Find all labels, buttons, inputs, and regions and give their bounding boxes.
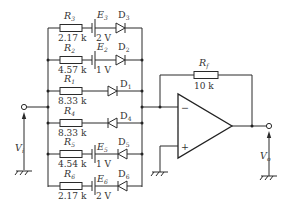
opamp-inverting-sign: − bbox=[181, 102, 189, 113]
resistor-r1 bbox=[60, 88, 82, 95]
svg-text:8.33 k: 8.33 k bbox=[58, 128, 87, 138]
svg-text:R3: R3 bbox=[63, 10, 75, 22]
diode-d3-icon bbox=[116, 23, 125, 33]
svg-text:D1: D1 bbox=[120, 78, 131, 90]
svg-text:8.33 k: 8.33 k bbox=[58, 96, 87, 106]
branch-r4-d4: R4 8.33 k D4 bbox=[47, 105, 144, 138]
rf-value: 10 k bbox=[194, 81, 214, 91]
ground-icon bbox=[151, 172, 168, 176]
svg-text:E6: E6 bbox=[96, 173, 108, 185]
input-terminal bbox=[21, 104, 26, 109]
svg-text:1 V: 1 V bbox=[96, 65, 112, 75]
ground-icon bbox=[260, 176, 277, 180]
resistor-r2 bbox=[60, 57, 82, 64]
svg-text:R6: R6 bbox=[63, 168, 75, 180]
branch-r3-e3-d3: R3 2.17 k E3 2 V D3 bbox=[48, 9, 142, 43]
vi-arrow-head bbox=[22, 112, 26, 119]
input-voltage-label: Vi bbox=[15, 142, 24, 154]
circuit-schematic: Vi R3 2.17 k E3 2 V D3 bbox=[0, 0, 290, 209]
svg-text:R2: R2 bbox=[63, 42, 75, 54]
svg-text:R4: R4 bbox=[63, 105, 75, 117]
ground-icon bbox=[15, 171, 32, 175]
svg-text:2 V: 2 V bbox=[96, 191, 112, 201]
resistor-r4 bbox=[60, 120, 82, 127]
resistor-rf bbox=[194, 72, 218, 79]
svg-text:2.17 k: 2.17 k bbox=[58, 191, 87, 201]
svg-text:4.57 k: 4.57 k bbox=[58, 65, 87, 75]
rf-label: Rf bbox=[198, 57, 210, 70]
branch-r5-e5-d5: R5 4.54 k E5 1 V D5 bbox=[47, 136, 144, 169]
svg-text:2.17 k: 2.17 k bbox=[58, 33, 87, 43]
output-terminal bbox=[266, 123, 271, 128]
svg-text:D5: D5 bbox=[118, 136, 130, 148]
branch-r1-d1: R1 8.33 k D1 bbox=[47, 73, 144, 106]
diode-d2-icon bbox=[116, 55, 125, 65]
svg-text:D2: D2 bbox=[118, 41, 130, 53]
svg-text:1 V: 1 V bbox=[96, 159, 112, 169]
resistor-r5 bbox=[60, 151, 82, 158]
svg-text:4.54 k: 4.54 k bbox=[58, 159, 87, 169]
branch-r2-e2-d2: R2 4.57 k E2 1 V D2 bbox=[47, 41, 144, 75]
resistor-r6 bbox=[60, 183, 82, 190]
svg-text:D4: D4 bbox=[120, 110, 132, 122]
junction-dot bbox=[47, 106, 50, 109]
branch-r6-e6-d6: R6 2.17 k E6 2 V D6 bbox=[48, 168, 142, 201]
diode-d6-icon bbox=[118, 181, 127, 191]
diode-d5-icon bbox=[118, 149, 127, 159]
diode-d1-icon bbox=[108, 86, 117, 96]
svg-text:E3: E3 bbox=[96, 9, 108, 21]
svg-text:D3: D3 bbox=[118, 9, 130, 21]
opamp-noninverting-sign: + bbox=[181, 141, 189, 152]
svg-text:E5: E5 bbox=[96, 141, 108, 153]
resistor-r3 bbox=[60, 25, 82, 32]
vo-arrow-head bbox=[267, 131, 271, 138]
svg-text:D6: D6 bbox=[118, 168, 130, 180]
diode-d4-icon bbox=[108, 118, 117, 128]
